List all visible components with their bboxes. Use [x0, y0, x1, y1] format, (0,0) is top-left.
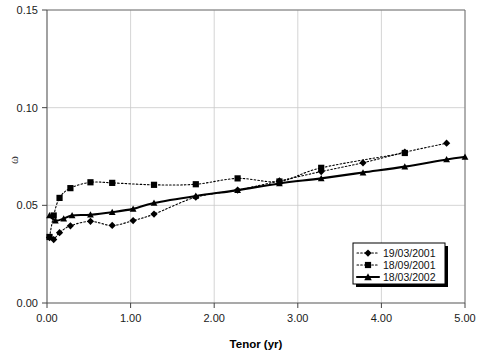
x-tick-label: 5.00 [454, 312, 475, 324]
x-tick-label: 0.00 [36, 312, 57, 324]
legend-marker-square [365, 262, 371, 268]
y-tick-label: 0.05 [17, 199, 38, 211]
x-tick-label: 3.00 [287, 312, 308, 324]
y-tick-label: 0.10 [17, 102, 38, 114]
x-tick-label: 2.00 [203, 312, 224, 324]
legend-label: 18/09/2001 [383, 259, 436, 271]
data-point-marker [193, 181, 199, 187]
chart-container: 0.001.002.003.004.005.00 0.000.050.100.1… [0, 0, 483, 354]
chart-legend[interactable]: 19/03/200118/09/200118/03/2002 [353, 243, 448, 287]
data-point-marker [402, 150, 408, 156]
data-point-marker [87, 179, 93, 185]
legend-label: 19/03/2001 [383, 247, 436, 259]
data-point-marker [46, 234, 52, 240]
data-point-marker [235, 175, 241, 181]
y-tick-label: 0.00 [17, 297, 38, 309]
x-axis-title: Tenor (yr) [230, 338, 283, 350]
data-point-marker [56, 195, 62, 201]
data-point-marker [67, 185, 73, 191]
y-axis-title: ω [7, 156, 21, 164]
chart-background [0, 0, 483, 354]
x-tick-label: 1.00 [120, 312, 141, 324]
omega-vs-tenor-line-chart: 0.001.002.003.004.005.00 0.000.050.100.1… [0, 0, 483, 354]
y-tick-label: 0.15 [17, 4, 38, 16]
x-tick-label: 4.00 [371, 312, 392, 324]
data-point-marker [151, 182, 157, 188]
data-point-marker [318, 165, 324, 171]
legend-label: 18/03/2002 [383, 271, 436, 283]
data-point-marker [109, 180, 115, 186]
